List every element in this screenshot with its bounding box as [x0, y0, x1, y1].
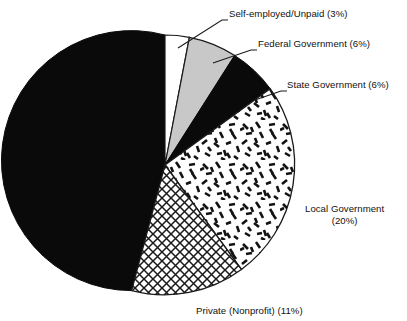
pie-chart-figure: Self-employed/Unpaid (3%) Federal Govern…	[0, 0, 407, 321]
pie-slice-private-for-profit	[1, 31, 165, 291]
slice-label-local-government: Local Government (20%)	[305, 203, 384, 226]
slice-label-private-nonprofit: Private (Nonprofit) (11%)	[196, 305, 303, 317]
slice-label-state-government: State Government (6%)	[287, 79, 389, 91]
slice-label-federal-government: Federal Government (6%)	[258, 38, 370, 50]
slice-label-self-employed-unpaid: Self-employed/Unpaid (3%)	[229, 8, 348, 20]
